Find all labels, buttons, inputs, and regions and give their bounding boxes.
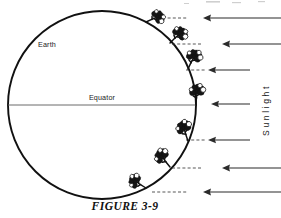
earth-sunlight-diagram: Earth Equator [0,0,281,218]
equator-label: Equator [89,93,116,102]
sunlight-ray-arrow [211,101,250,107]
sunlight-ray-arrow [222,165,281,172]
scan-artifacts [184,1,265,4]
figure-container: Earth Equator [0,0,281,218]
sunlight-ray-arrow [208,137,250,143]
earth-label: Earth [38,40,56,49]
figure-caption: FIGURE 3-9 [91,200,159,213]
sunlight-ray-arrow [203,189,281,196]
sunlight-ray-arrow [208,67,250,73]
sunlight-label: Sunlight [261,84,271,136]
sunlight-ray-arrow [222,41,281,48]
sunlight-ray-arrow [203,15,281,22]
